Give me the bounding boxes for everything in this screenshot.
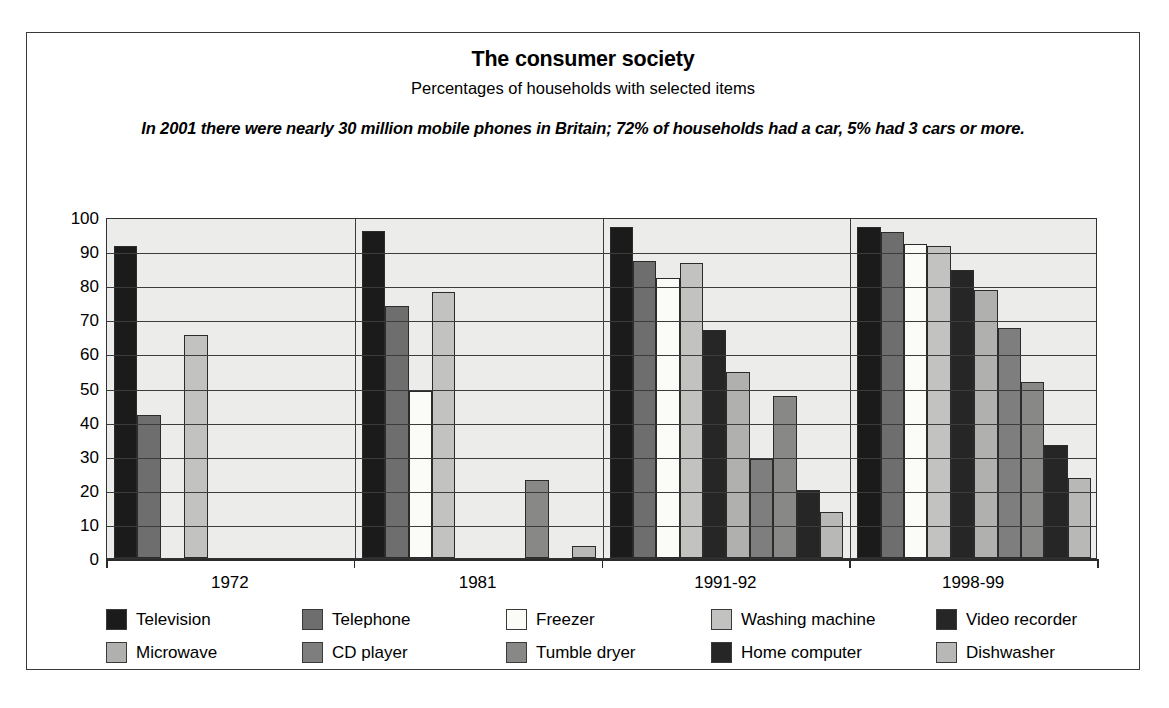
bar	[184, 335, 207, 558]
legend-item[interactable]: Tumble dryer	[506, 642, 636, 663]
bar	[998, 328, 1021, 558]
chart-figure: The consumer society Percentages of hous…	[26, 32, 1140, 670]
plot-area	[106, 218, 1097, 559]
bar	[114, 246, 137, 558]
group-separator-line	[850, 219, 851, 558]
gridline	[107, 390, 1096, 391]
legend-item[interactable]: Washing machine	[711, 609, 876, 630]
gridline	[107, 287, 1096, 288]
x-tick-mark	[849, 559, 851, 568]
bar	[797, 490, 820, 558]
legend-label: Telephone	[332, 611, 410, 628]
y-tick-label: 50	[27, 380, 99, 397]
legend-label: Dishwasher	[966, 644, 1055, 661]
legend-swatch-icon	[711, 642, 732, 663]
legend-swatch-icon	[506, 642, 527, 663]
x-tick-mark	[1097, 559, 1099, 568]
legend-label: Washing machine	[741, 611, 876, 628]
legend-swatch-icon	[711, 609, 732, 630]
legend-label: CD player	[332, 644, 408, 661]
bar	[572, 546, 595, 558]
chart-subtitle: Percentages of households with selected …	[27, 79, 1139, 98]
bar	[881, 232, 904, 558]
bar	[750, 459, 773, 558]
y-tick-label: 0	[27, 551, 99, 568]
group-separator-line	[603, 219, 604, 558]
plot-area-wrapper: 0102030405060708090100 197219811991-9219…	[27, 185, 1141, 671]
y-tick-label: 10	[27, 516, 99, 533]
bar	[680, 263, 703, 558]
legend-swatch-icon	[936, 642, 957, 663]
gridline	[107, 253, 1096, 254]
legend-label: Television	[136, 611, 211, 628]
gridline	[107, 355, 1096, 356]
legend-swatch-icon	[302, 609, 323, 630]
bar	[1068, 478, 1091, 558]
legend-item[interactable]: Dishwasher	[936, 642, 1055, 663]
bar	[703, 330, 726, 558]
bar	[951, 270, 974, 558]
legend-item[interactable]: Microwave	[106, 642, 217, 663]
group-separator-line	[355, 219, 356, 558]
gridline	[107, 321, 1096, 322]
x-group-label: 1972	[211, 573, 249, 593]
title-block: The consumer society Percentages of hous…	[27, 33, 1139, 99]
x-group-label: 1991-92	[694, 573, 756, 593]
legend-label: Tumble dryer	[536, 644, 636, 661]
legend-swatch-icon	[106, 609, 127, 630]
bar	[1021, 382, 1044, 558]
gridline	[107, 492, 1096, 493]
bar	[726, 372, 749, 558]
y-tick-label: 90	[27, 244, 99, 261]
bar	[927, 246, 950, 558]
legend-item[interactable]: Television	[106, 609, 211, 630]
y-tick-label: 80	[27, 278, 99, 295]
bar	[610, 227, 633, 558]
gridline	[107, 424, 1096, 425]
legend-swatch-icon	[302, 642, 323, 663]
x-group-label: 1981	[459, 573, 497, 593]
x-tick-mark	[354, 559, 356, 568]
legend-swatch-icon	[506, 609, 527, 630]
bar	[1044, 445, 1067, 558]
x-group-label: 1998-99	[942, 573, 1004, 593]
legend-label: Home computer	[741, 644, 862, 661]
bar	[857, 227, 880, 558]
bar	[432, 292, 455, 558]
gridline	[107, 526, 1096, 527]
bar	[633, 261, 656, 558]
y-tick-label: 40	[27, 414, 99, 431]
legend-swatch-icon	[936, 609, 957, 630]
chart-annotation: In 2001 there were nearly 30 million mob…	[27, 119, 1139, 138]
y-tick-label: 100	[27, 210, 99, 227]
x-tick-mark	[602, 559, 604, 568]
legend-item[interactable]: Freezer	[506, 609, 595, 630]
bar	[362, 231, 385, 558]
legend-item[interactable]: Video recorder	[936, 609, 1077, 630]
x-tick-mark	[106, 559, 108, 568]
y-tick-label: 60	[27, 346, 99, 363]
bar	[385, 306, 408, 558]
bar	[820, 512, 843, 558]
page-title: The consumer society	[27, 47, 1139, 72]
gridline	[107, 458, 1096, 459]
legend-item[interactable]: Telephone	[302, 609, 410, 630]
bar	[773, 396, 796, 558]
legend-swatch-icon	[106, 642, 127, 663]
legend-label: Video recorder	[966, 611, 1077, 628]
bar-series-container	[107, 219, 1096, 558]
legend-label: Microwave	[136, 644, 217, 661]
bar	[409, 391, 432, 558]
bar	[904, 244, 927, 558]
y-tick-label: 30	[27, 448, 99, 465]
chart-legend: TelevisionTelephoneFreezerWashing machin…	[106, 609, 1116, 669]
y-tick-label: 70	[27, 312, 99, 329]
y-axis-tick-labels: 0102030405060708090100	[27, 211, 99, 559]
bar	[137, 415, 160, 558]
y-tick-label: 20	[27, 482, 99, 499]
legend-item[interactable]: Home computer	[711, 642, 862, 663]
legend-label: Freezer	[536, 611, 595, 628]
legend-item[interactable]: CD player	[302, 642, 408, 663]
